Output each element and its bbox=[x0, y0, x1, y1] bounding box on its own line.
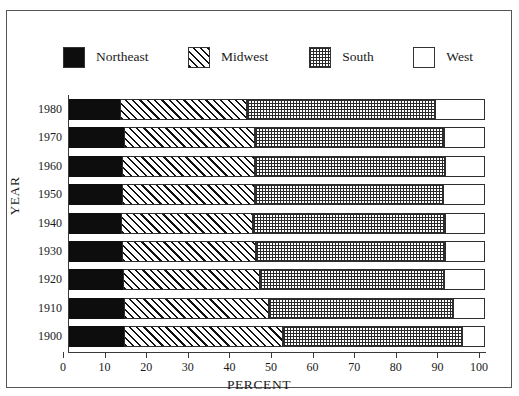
bar-row[interactable]: 1900 bbox=[69, 326, 485, 347]
y-axis-tick-label: 1930 bbox=[38, 244, 62, 259]
x-axis-tick-label: 70 bbox=[348, 360, 360, 374]
bar-segment-midwest[interactable] bbox=[122, 156, 254, 177]
x-axis-tick-label: 10 bbox=[99, 360, 111, 374]
y-axis-tick-label: 1900 bbox=[38, 329, 62, 344]
legend-swatch-south-icon bbox=[309, 47, 331, 68]
x-axis-tick bbox=[146, 352, 147, 358]
bar-row[interactable]: 1950 bbox=[69, 184, 485, 205]
bar-segment-midwest[interactable] bbox=[124, 127, 255, 148]
bar-segment-midwest[interactable] bbox=[124, 326, 283, 347]
bar-segment-midwest[interactable] bbox=[124, 298, 269, 319]
bar-segment-midwest[interactable] bbox=[123, 269, 260, 290]
bar-segment-west[interactable] bbox=[444, 127, 485, 148]
bar-segment-northeast[interactable] bbox=[69, 298, 124, 319]
plot-area: 198019701960195019401930192019101900 bbox=[69, 95, 485, 351]
bar-row[interactable]: 1960 bbox=[69, 156, 485, 177]
bar-segment-northeast[interactable] bbox=[69, 326, 124, 347]
bar-segment-west[interactable] bbox=[445, 156, 485, 177]
x-axis-tick bbox=[105, 352, 106, 358]
bar-row[interactable]: 1970 bbox=[69, 127, 485, 148]
y-axis-tick-label: 1970 bbox=[38, 130, 62, 145]
bar-segment-south[interactable] bbox=[255, 184, 443, 205]
bar-segment-northeast[interactable] bbox=[69, 241, 122, 262]
bar-segment-midwest[interactable] bbox=[120, 99, 247, 120]
x-axis-tick bbox=[229, 352, 230, 358]
y-axis-line bbox=[68, 95, 69, 352]
bar-segment-south[interactable] bbox=[269, 298, 453, 319]
x-axis-tick bbox=[188, 352, 189, 358]
bar-segment-midwest[interactable] bbox=[122, 184, 255, 205]
bar-segment-northeast[interactable] bbox=[69, 156, 122, 177]
bar-segment-northeast[interactable] bbox=[69, 269, 123, 290]
bar-row[interactable]: 1980 bbox=[69, 99, 485, 120]
bar-segment-south[interactable] bbox=[247, 99, 435, 120]
x-axis-tick bbox=[271, 352, 272, 358]
bar-segment-south[interactable] bbox=[283, 326, 462, 347]
legend-item-west[interactable]: West bbox=[413, 47, 473, 68]
legend-swatch-west-icon bbox=[413, 47, 435, 68]
bar-row[interactable]: 1940 bbox=[69, 213, 485, 234]
bar-segment-south[interactable] bbox=[255, 127, 444, 148]
y-axis-tick-label: 1980 bbox=[38, 102, 62, 117]
x-axis-tick bbox=[63, 352, 64, 358]
y-axis-tick-label: 1950 bbox=[38, 187, 62, 202]
x-axis-tick bbox=[354, 352, 355, 358]
legend-swatch-midwest-icon bbox=[188, 47, 210, 68]
bar-row[interactable]: 1910 bbox=[69, 298, 485, 319]
x-axis-tick bbox=[437, 352, 438, 358]
x-axis-tick-label: 80 bbox=[390, 360, 402, 374]
bar-segment-northeast[interactable] bbox=[69, 213, 121, 234]
x-axis-tick-label: 20 bbox=[140, 360, 152, 374]
x-axis-tick bbox=[396, 352, 397, 358]
top-cut-off-caption bbox=[150, 0, 510, 7]
x-axis-tick-label: 40 bbox=[223, 360, 235, 374]
legend-swatch-northeast-icon bbox=[63, 47, 85, 68]
bar-segment-midwest[interactable] bbox=[122, 241, 256, 262]
y-axis-tick-label: 1940 bbox=[38, 216, 62, 231]
bar-segment-west[interactable] bbox=[435, 99, 485, 120]
chart-legend: NortheastMidwestSouthWest bbox=[63, 44, 473, 70]
bar-segment-northeast[interactable] bbox=[69, 127, 124, 148]
bar-segment-south[interactable] bbox=[260, 269, 444, 290]
x-axis-tick-label: 90 bbox=[431, 360, 443, 374]
x-axis-tick-label: 60 bbox=[307, 360, 319, 374]
x-axis-tick-label: 100 bbox=[470, 360, 488, 374]
bar-segment-west[interactable] bbox=[445, 213, 485, 234]
legend-label: West bbox=[446, 50, 473, 64]
x-axis-line bbox=[68, 352, 486, 353]
legend-label: Midwest bbox=[221, 50, 268, 64]
bar-segment-south[interactable] bbox=[253, 213, 446, 234]
y-axis-tick-label: 1960 bbox=[38, 159, 62, 174]
x-axis-title: PERCENT bbox=[7, 377, 511, 393]
x-axis-tick bbox=[313, 352, 314, 358]
bar-segment-west[interactable] bbox=[462, 326, 485, 347]
legend-item-northeast[interactable]: Northeast bbox=[63, 47, 188, 68]
y-axis-tick-label: 1920 bbox=[38, 272, 62, 287]
bar-segment-west[interactable] bbox=[443, 184, 485, 205]
bar-segment-northeast[interactable] bbox=[69, 184, 122, 205]
chart-frame: NortheastMidwestSouthWest 19801970196019… bbox=[6, 10, 512, 388]
legend-item-midwest[interactable]: Midwest bbox=[188, 47, 309, 68]
legend-item-south[interactable]: South bbox=[309, 47, 413, 68]
bar-segment-west[interactable] bbox=[445, 241, 485, 262]
bar-segment-west[interactable] bbox=[444, 269, 485, 290]
legend-label: South bbox=[342, 50, 374, 64]
bar-segment-south[interactable] bbox=[255, 156, 445, 177]
y-axis-title: YEAR bbox=[7, 176, 23, 215]
x-axis-tick-label: 0 bbox=[60, 360, 66, 374]
x-axis-tick-label: 30 bbox=[182, 360, 194, 374]
y-axis-tick-label: 1910 bbox=[38, 301, 62, 316]
x-axis-tick bbox=[479, 352, 480, 358]
x-axis-tick-label: 50 bbox=[265, 360, 277, 374]
bar-segment-midwest[interactable] bbox=[121, 213, 253, 234]
bar-row[interactable]: 1920 bbox=[69, 269, 485, 290]
bar-segment-south[interactable] bbox=[256, 241, 445, 262]
bar-segment-northeast[interactable] bbox=[69, 99, 120, 120]
legend-label: Northeast bbox=[96, 50, 148, 64]
bar-segment-west[interactable] bbox=[453, 298, 485, 319]
bar-row[interactable]: 1930 bbox=[69, 241, 485, 262]
